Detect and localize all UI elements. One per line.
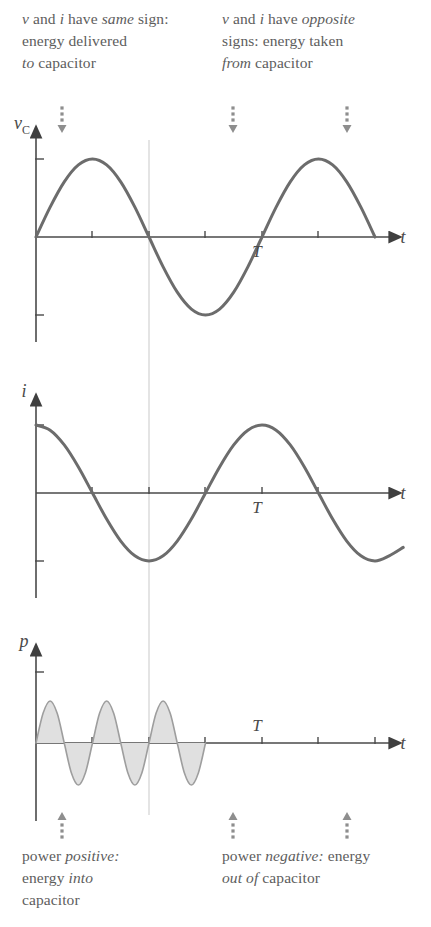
arrow-bottom-1-dot-2 xyxy=(60,829,63,832)
arrow-top-2-head xyxy=(229,125,238,133)
capacitor-power-y-axis-label: p xyxy=(18,631,29,651)
pointer-arrows-top xyxy=(58,106,352,133)
capacitor-power-figure: v and i have same sign: energy delivered… xyxy=(0,0,431,927)
waveform-plot-svg: vCtT itT ptT xyxy=(0,0,431,927)
arrow-top-2-dot-1 xyxy=(231,118,234,121)
arrow-top-1-dot-3 xyxy=(60,106,63,109)
arrow-bottom-3-head xyxy=(343,812,352,820)
arrow-bottom-1-head xyxy=(58,812,67,820)
arrow-bottom-3-dot-2 xyxy=(345,829,348,832)
arrow-top-2-dot-3 xyxy=(231,106,234,109)
arrow-bottom-3-dot-3 xyxy=(345,835,348,838)
pointer-arrows-bottom xyxy=(58,812,352,839)
capacitor-current-y-axis-label: i xyxy=(21,381,26,401)
arrow-bottom-1-dot-1 xyxy=(60,823,63,826)
arrow-top-3-dot-3 xyxy=(345,106,348,109)
arrow-bottom-1-dot-3 xyxy=(60,835,63,838)
capacitor-power-x-axis-label: t xyxy=(400,733,406,753)
arrow-bottom-2-dot-3 xyxy=(231,835,234,838)
capacitor-voltage-period-label: T xyxy=(252,242,263,261)
arrow-top-1-head xyxy=(58,125,67,133)
capacitor-current-x-axis-label: t xyxy=(400,483,406,503)
arrow-top-2-dot-2 xyxy=(231,112,234,115)
arrow-top-1-dot-2 xyxy=(60,112,63,115)
capacitor-voltage-y-axis-label: vC xyxy=(14,113,30,137)
arrow-bottom-2-dot-1 xyxy=(231,823,234,826)
capacitor-voltage-y-axis-label-sub: C xyxy=(22,123,30,137)
capacitor-voltage-x-axis-label: t xyxy=(400,227,406,247)
arrow-bottom-3 xyxy=(343,812,352,839)
arrow-top-3-head xyxy=(343,125,352,133)
arrow-top-3-dot-1 xyxy=(345,118,348,121)
arrow-bottom-3-dot-1 xyxy=(345,823,348,826)
arrow-top-2 xyxy=(229,106,238,133)
chart-capacitor-current: itT xyxy=(21,381,406,598)
chart-capacitor-power: ptT xyxy=(18,631,407,821)
capacitor-power-period-label: T xyxy=(252,716,263,735)
arrow-top-3-dot-2 xyxy=(345,112,348,115)
arrow-top-1 xyxy=(58,106,67,133)
arrow-top-3 xyxy=(343,106,352,133)
arrow-bottom-1 xyxy=(58,812,67,839)
arrow-bottom-2-dot-2 xyxy=(231,829,234,832)
arrow-bottom-2-head xyxy=(229,812,238,820)
chart-capacitor-voltage: vCtT xyxy=(14,113,407,342)
arrow-bottom-2 xyxy=(229,812,238,839)
capacitor-current-period-label: T xyxy=(252,498,263,517)
arrow-top-1-dot-1 xyxy=(60,118,63,121)
